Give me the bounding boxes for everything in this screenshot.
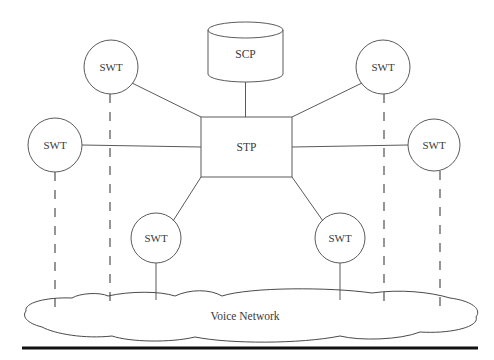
swt-label: SWT bbox=[371, 61, 395, 73]
link-swt-left-to-stp bbox=[82, 145, 201, 147]
node-swt-bottom-left[interactable]: SWT bbox=[131, 213, 181, 263]
swt-label: SWT bbox=[99, 61, 123, 73]
voice-network-label: Voice Network bbox=[210, 310, 279, 322]
link-swt-top-right-to-stp bbox=[292, 83, 362, 117]
stp-label: STP bbox=[237, 141, 257, 153]
network-diagram: SCP STP SWT SWT SWT SWT SWT bbox=[0, 0, 494, 360]
swt-label: SWT bbox=[144, 232, 168, 244]
cylinder-top-icon bbox=[208, 22, 283, 38]
node-swt-top-right[interactable]: SWT bbox=[356, 40, 410, 94]
node-swt-right[interactable]: SWT bbox=[408, 119, 460, 171]
link-swt-top-left-to-stp bbox=[132, 83, 201, 117]
trunk-solid-links bbox=[156, 263, 340, 300]
node-voice-network-cloud[interactable]: Voice Network bbox=[25, 289, 478, 342]
swt-label: SWT bbox=[43, 139, 67, 151]
node-swt-left[interactable]: SWT bbox=[28, 118, 82, 172]
trunk-dashed-links bbox=[55, 94, 440, 312]
link-swt-bottom-left-to-stp bbox=[173, 177, 201, 221]
diagram-canvas: SCP STP SWT SWT SWT SWT SWT bbox=[0, 0, 494, 360]
swt-label: SWT bbox=[328, 232, 352, 244]
node-scp[interactable]: SCP bbox=[208, 22, 283, 82]
scp-label: SCP bbox=[235, 48, 255, 60]
node-swt-bottom-right[interactable]: SWT bbox=[315, 213, 365, 263]
link-swt-bottom-right-to-stp bbox=[292, 177, 323, 221]
link-swt-right-to-stp bbox=[292, 145, 408, 147]
node-stp[interactable]: STP bbox=[201, 117, 292, 177]
swt-label: SWT bbox=[422, 139, 446, 151]
node-swt-top-left[interactable]: SWT bbox=[84, 40, 138, 94]
